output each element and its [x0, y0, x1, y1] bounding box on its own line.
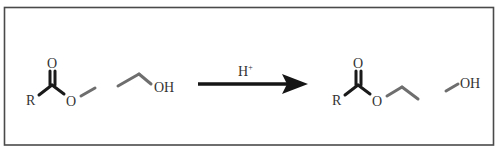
reactant-ester: R O O: [26, 56, 95, 109]
product-r-c-bond: [345, 85, 358, 95]
reactant-c-o-bond: [52, 85, 64, 94]
reactant-ester-r-label: R: [26, 93, 36, 108]
reactant-r-c-bond: [39, 85, 52, 95]
product-ester-o-label: O: [372, 94, 382, 109]
reactant-ethyl-bond-2: [139, 74, 151, 84]
catalyst-label: H+: [238, 63, 253, 79]
reactant-alcohol: OH: [118, 74, 174, 95]
catalyst-charge: +: [248, 63, 253, 72]
product-ester: R O O: [332, 56, 418, 109]
product-ethyl-bond-1: [387, 87, 402, 96]
product-ethyl-bond-2: [402, 87, 418, 99]
reaction-scheme: R O O OH H+ R O O OH: [0, 0, 500, 153]
reactant-ester-o-label: O: [66, 94, 76, 109]
reactant-alcohol-oh-label: OH: [154, 80, 174, 95]
product-alcohol: OH: [446, 76, 480, 91]
reactant-methyl-bond: [81, 88, 95, 96]
product-ester-r-label: R: [332, 93, 342, 108]
reactant-carbonyl-o-label: O: [47, 56, 57, 71]
product-methyl-bond: [446, 84, 458, 91]
product-alcohol-oh-label: OH: [460, 76, 480, 91]
reaction-arrow: H+: [198, 63, 308, 94]
product-c-o-bond: [358, 85, 370, 94]
diagram-frame: [5, 8, 494, 146]
reactant-ethyl-bond-1: [118, 74, 139, 86]
product-carbonyl-o-label: O: [353, 56, 363, 71]
catalyst-symbol: H: [238, 64, 248, 79]
